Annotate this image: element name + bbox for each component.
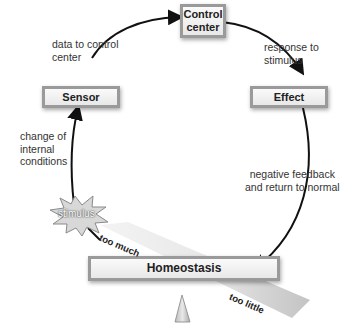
arrow-stimulus-to-sensor — [71, 108, 78, 205]
control-center-box: Control center — [180, 4, 226, 38]
effect-to-homeostasis-label: negative feedback and return to normal — [245, 168, 340, 193]
control-to-effect-label: response to stimulus — [264, 41, 319, 66]
stimulus-to-sensor-label: change of internal conditions — [20, 130, 67, 168]
homeostasis-box: Homeostasis — [88, 256, 280, 281]
effect-label: Effect — [274, 91, 305, 104]
sensor-label: Sensor — [62, 91, 99, 104]
effect-box: Effect — [250, 86, 328, 108]
sensor-box: Sensor — [42, 86, 120, 108]
control-center-label-line2: center — [186, 21, 219, 34]
fulcrum-triangle — [175, 295, 190, 322]
stimulus-label: stimulus — [58, 208, 95, 219]
control-center-label-line1: Control — [183, 8, 222, 21]
homeostasis-label: Homeostasis — [147, 262, 222, 275]
sensor-to-control-label: data to control center — [52, 38, 119, 63]
